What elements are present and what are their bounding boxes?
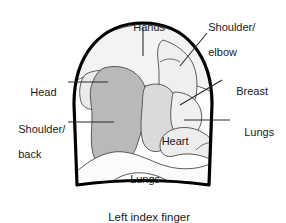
label-breast: Breast bbox=[224, 72, 280, 110]
label-heart-text: Heart bbox=[162, 135, 189, 147]
label-hands: Hands bbox=[107, 8, 179, 46]
label-shoulder-back-line1: Shoulder/ bbox=[18, 123, 65, 135]
label-shoulder-elbow-line1: Shoulder/ bbox=[208, 21, 255, 33]
label-heart: Heart bbox=[147, 122, 191, 160]
label-lungs-right: Lungs bbox=[232, 113, 280, 151]
figure-caption-text: Left index finger bbox=[108, 211, 190, 223]
label-head: Head bbox=[18, 73, 66, 111]
figure-caption: Left index finger bbox=[63, 198, 223, 223]
label-lungs-inner: Lungs bbox=[116, 160, 162, 198]
label-hands-text: Hands bbox=[133, 21, 165, 33]
label-lungs-right-text: Lungs bbox=[244, 126, 274, 138]
label-head-text: Head bbox=[30, 86, 56, 98]
label-shoulder-back-line2: back bbox=[18, 148, 41, 160]
label-shoulder-elbow-line2: elbow bbox=[208, 46, 237, 58]
label-shoulder-elbow: Shoulder/ elbow bbox=[196, 8, 282, 71]
finger-reflexology-diagram: Hands Shoulder/ elbow Head Breast Should… bbox=[0, 0, 286, 223]
label-lungs-inner-text: Lungs bbox=[130, 173, 160, 185]
label-breast-text: Breast bbox=[236, 85, 268, 97]
label-shoulder-back: Shoulder/ back bbox=[6, 110, 66, 173]
